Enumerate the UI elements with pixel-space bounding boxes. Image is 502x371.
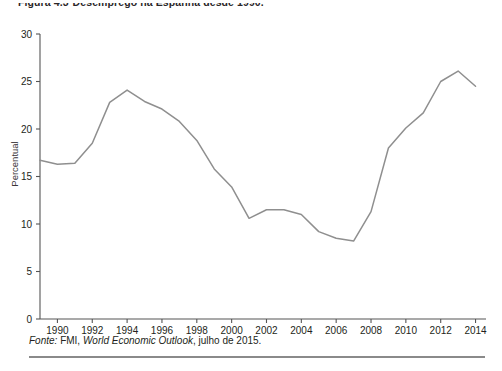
- x-tick-label: 1998: [186, 325, 209, 334]
- x-tick-label: 2002: [255, 325, 278, 334]
- x-tick-label: 1992: [81, 325, 104, 334]
- x-tick-label: 2012: [430, 325, 453, 334]
- x-tick-label: 1990: [46, 325, 69, 334]
- x-tick-label: 2000: [221, 325, 244, 334]
- y-axis-title: Percentual: [9, 141, 20, 186]
- source-note: Fonte: FMI, World Economic Outlook, julh…: [29, 335, 261, 346]
- source-publication: World Economic Outlook: [83, 335, 193, 346]
- y-tick-label: 0: [26, 314, 32, 325]
- figure-page: Figura 4.3Desemprego na Espanha desde 19…: [0, 0, 502, 371]
- chart-svg: 051015202530 199019921994199619982000200…: [0, 14, 502, 334]
- source-label: Fonte:: [29, 335, 57, 346]
- x-tick-label: 1996: [151, 325, 174, 334]
- y-tick-label: 15: [21, 171, 33, 182]
- data-series-line: [40, 71, 476, 241]
- y-axis-ticks: 051015202530: [21, 29, 40, 325]
- y-tick-label: 10: [21, 219, 33, 230]
- x-tick-label: 2008: [360, 325, 383, 334]
- y-tick-label: 20: [21, 124, 33, 135]
- y-tick-label: 25: [21, 76, 33, 87]
- x-tick-label: 1994: [116, 325, 139, 334]
- x-tick-label: 2004: [290, 325, 313, 334]
- figure-caption: Figura 4.3Desemprego na Espanha desde 19…: [18, 0, 264, 8]
- y-tick-label: 5: [26, 266, 32, 277]
- source-text-before: FMI,: [57, 335, 83, 346]
- source-text-after: , julho de 2015.: [193, 335, 261, 346]
- x-tick-label: 2014: [464, 325, 487, 334]
- y-tick-label: 30: [21, 29, 33, 40]
- bottom-divider: [29, 356, 485, 358]
- x-tick-label: 2006: [325, 325, 348, 334]
- unemployment-line-chart: Percentual 051015202530 1990199219941996…: [0, 14, 502, 334]
- figure-number: Figura 4.3: [18, 0, 69, 8]
- x-axis-ticks: 1990199219941996199820002002200420062008…: [46, 319, 487, 334]
- figure-title: Desemprego na Espanha desde 1990.: [73, 0, 264, 8]
- x-tick-label: 2010: [395, 325, 418, 334]
